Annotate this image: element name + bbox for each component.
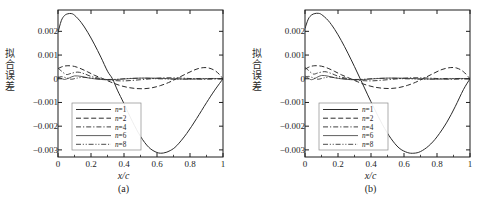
x-axis-label-b: x/c — [247, 170, 494, 181]
panel-a: 拟 合 误 差 0.0020.0010−0.001−0.002−0.003 00… — [0, 0, 247, 200]
legend-label-n-2: n=2 — [115, 115, 127, 123]
legend-label-n-6: n=6 — [362, 132, 374, 140]
legend-box — [72, 103, 141, 150]
panel-b: 拟 合 误 差 0.0020.0010−0.001−0.002−0.003 00… — [247, 0, 494, 200]
legend-label-n-6: n=6 — [115, 132, 127, 140]
legend-label-n-2: n=2 — [362, 115, 374, 123]
legend-label-n-1: n=1 — [115, 106, 127, 114]
legend-label-n-4: n=4 — [362, 124, 374, 132]
x-axis-label-a: x/c — [0, 170, 247, 181]
panel-caption-b: (b) — [247, 183, 494, 194]
curve-n-6 — [58, 76, 223, 80]
legend-box — [319, 103, 388, 150]
curve-n-6 — [305, 75, 470, 79]
figure-container: 拟 合 误 差 0.0020.0010−0.001−0.002−0.003 00… — [0, 0, 495, 200]
legend-label-n-8: n=8 — [115, 141, 127, 149]
legend-label-n-4: n=4 — [115, 124, 127, 132]
legend-label-n-1: n=1 — [362, 106, 374, 114]
legend-label-n-8: n=8 — [362, 141, 374, 149]
panel-caption-a: (a) — [0, 183, 247, 194]
